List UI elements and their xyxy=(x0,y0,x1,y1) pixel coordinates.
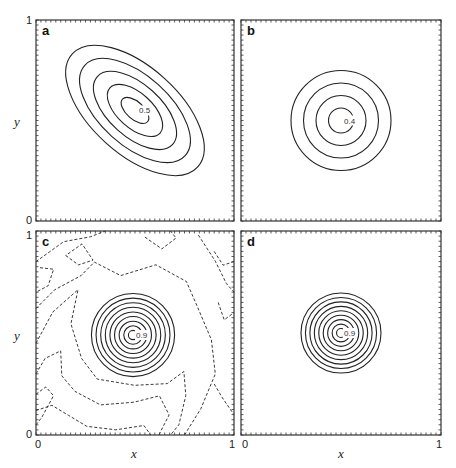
y-axis-label-bottom: y xyxy=(12,328,20,343)
y-tick-1-bottom: 1 xyxy=(26,229,32,241)
peak-contour-label: 0.5 xyxy=(139,106,151,115)
panel-a: 0.5a xyxy=(36,20,234,221)
contour-figure: 0.5a0.4b0.9c0.9d 1 0 1 0 0 1 0 1 y y x x xyxy=(0,0,456,468)
solid-contours xyxy=(301,293,381,373)
y-tick-0-bottom: 0 xyxy=(26,428,32,440)
x-axis-label-right: x xyxy=(337,446,344,461)
solid-contours xyxy=(43,22,227,200)
peak-contour-label: 0.9 xyxy=(136,331,148,340)
x-tick-0-right: 0 xyxy=(242,438,248,450)
x-tick-1-right: 1 xyxy=(436,438,442,450)
panel-letter: b xyxy=(247,23,255,38)
plot-frame xyxy=(36,231,234,435)
panel-letter: c xyxy=(42,234,49,249)
y-tick-0-top: 0 xyxy=(26,214,32,226)
dashed-contours xyxy=(36,231,234,435)
axis-ticks xyxy=(241,231,441,435)
solid-contours xyxy=(291,71,391,171)
x-axis-label-left: x xyxy=(130,446,137,461)
solid-contours xyxy=(91,293,174,376)
panel-letter: d xyxy=(247,234,255,249)
y-axis-label-top: y xyxy=(12,114,20,129)
x-tick-1-left: 1 xyxy=(229,438,235,450)
x-tick-0-left: 0 xyxy=(35,438,41,450)
plot-frame xyxy=(241,231,441,435)
y-tick-1-top: 1 xyxy=(26,14,32,26)
axis-ticks xyxy=(241,20,441,221)
panel-letter: a xyxy=(42,23,50,38)
panel-d: 0.9d xyxy=(241,231,441,435)
peak-contour-label: 0.4 xyxy=(344,117,356,126)
panel-b: 0.4b xyxy=(241,20,441,221)
peak-contour-label: 0.9 xyxy=(344,329,356,338)
plot-frame xyxy=(241,20,441,221)
axis-ticks xyxy=(36,231,234,435)
panel-c: 0.9c xyxy=(36,231,234,435)
